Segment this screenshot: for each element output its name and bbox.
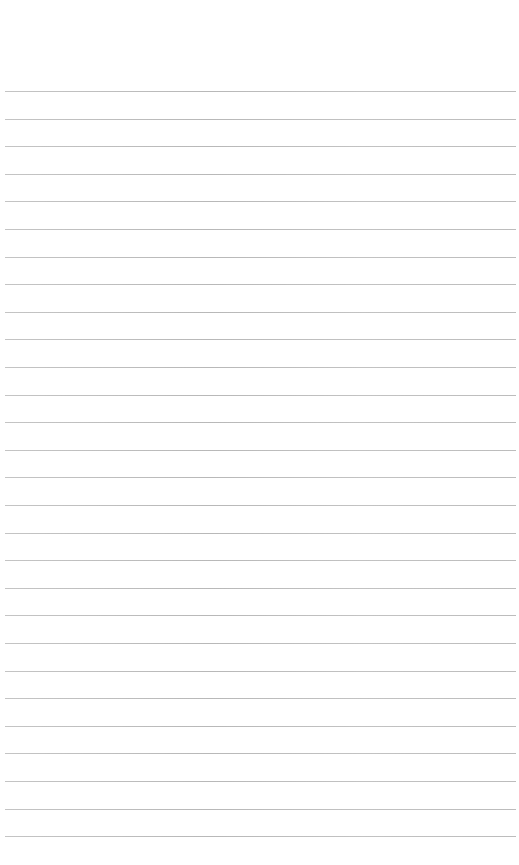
ruled-line: [5, 809, 516, 810]
ruled-line: [5, 533, 516, 534]
ruled-line: [5, 505, 516, 506]
ruled-line: [5, 119, 516, 120]
ruled-line: [5, 588, 516, 589]
ruled-line: [5, 698, 516, 699]
ruled-line: [5, 201, 516, 202]
ruled-line: [5, 643, 516, 644]
ruled-line: [5, 339, 516, 340]
ruled-page: [0, 0, 519, 865]
ruled-line: [5, 312, 516, 313]
ruled-line: [5, 229, 516, 230]
ruled-line: [5, 395, 516, 396]
ruled-line: [5, 671, 516, 672]
ruled-line: [5, 726, 516, 727]
ruled-line: [5, 422, 516, 423]
ruled-line: [5, 367, 516, 368]
ruled-line: [5, 174, 516, 175]
ruled-line: [5, 257, 516, 258]
ruled-line: [5, 615, 516, 616]
ruled-line: [5, 836, 516, 837]
ruled-line: [5, 450, 516, 451]
ruled-line: [5, 146, 516, 147]
ruled-line: [5, 753, 516, 754]
ruled-line: [5, 284, 516, 285]
ruled-line: [5, 560, 516, 561]
ruled-line: [5, 91, 516, 92]
ruled-line: [5, 477, 516, 478]
ruled-line: [5, 781, 516, 782]
